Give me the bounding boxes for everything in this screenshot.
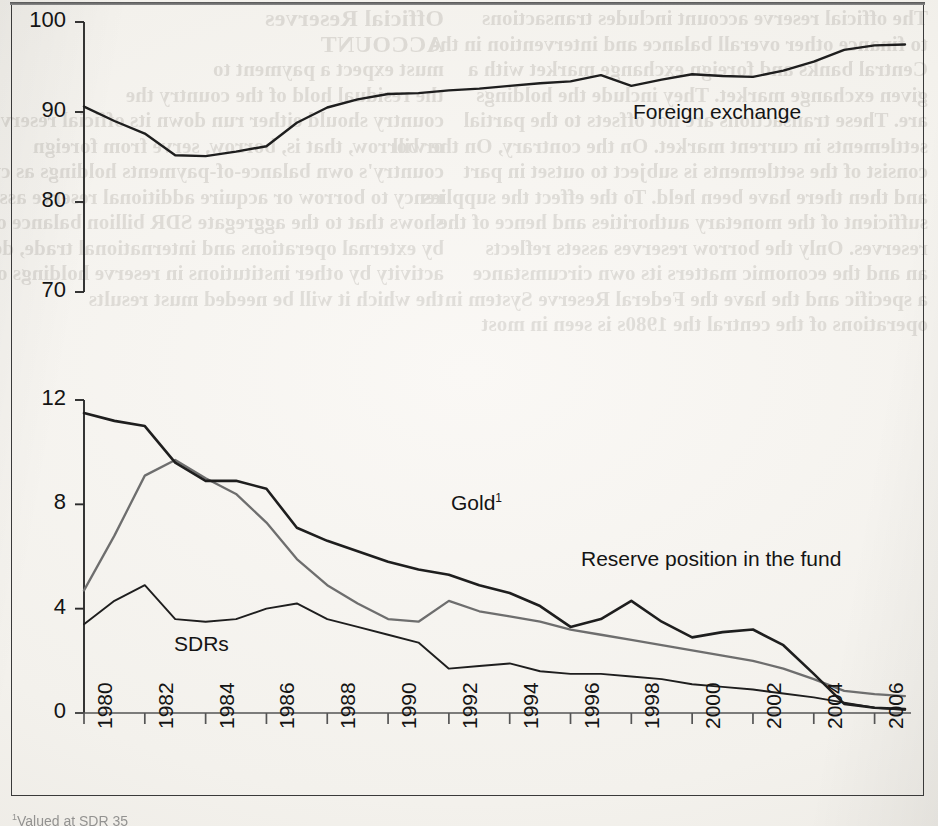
x-axis-tick-label: 2002 (762, 682, 786, 729)
x-axis-tick-label: 1994 (519, 682, 543, 729)
x-axis-tick-label: 1984 (215, 682, 239, 729)
chart-axes (75, 22, 911, 724)
y-axis-tick-label: 100 (18, 7, 66, 33)
series-label-gold: Gold1 (451, 491, 502, 515)
chart-footnote: 1Valued at SDR 35 (12, 812, 128, 826)
series-label-reserve-position-in-the-fund: Reserve position in the fund (581, 547, 841, 571)
x-axis-tick-label: 1988 (336, 682, 360, 729)
x-axis-tick-label: 1990 (397, 682, 421, 729)
series-label-foreign-exchange: Foreign exchange (633, 100, 801, 124)
x-axis-tick-label: 1986 (275, 682, 299, 729)
y-axis-tick-label: 0 (18, 698, 66, 724)
y-axis-tick-label: 8 (18, 489, 66, 515)
x-axis-tick-label: 1982 (154, 682, 178, 729)
x-axis-tick-label: 2004 (823, 682, 847, 729)
x-axis-tick-label: 1980 (93, 682, 117, 729)
y-axis-tick-label: 12 (18, 385, 66, 411)
y-axis-tick-label: 80 (18, 187, 66, 213)
x-axis-tick-label: 2006 (884, 682, 908, 729)
chart-series-lines (84, 45, 905, 710)
footnote-text: Valued at SDR 35 (17, 813, 128, 826)
x-axis-tick-label: 2000 (701, 682, 725, 729)
y-axis-tick-label: 4 (18, 594, 66, 620)
gold-footnote-marker: 1 (495, 491, 502, 505)
y-axis-tick-label: 90 (18, 97, 66, 123)
series-label-gold-text: Gold (451, 491, 495, 514)
series-label-sdrs: SDRs (174, 632, 229, 656)
x-axis-tick-label: 1996 (580, 682, 604, 729)
x-axis-tick-label: 1998 (640, 682, 664, 729)
x-axis-tick-label: 1992 (458, 682, 482, 729)
y-axis-tick-label: 70 (18, 277, 66, 303)
